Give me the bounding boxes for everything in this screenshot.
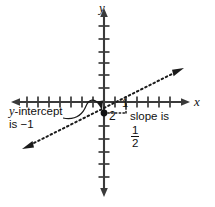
x-axis-label: x	[194, 95, 200, 110]
y-intercept-annotation-line-1: y-intercept	[9, 104, 63, 118]
graph-figure: y x y-intercept is −1 slope is 1 2 2 1	[0, 0, 215, 207]
intercept-callout-arrowhead	[97, 101, 104, 111]
slope-fraction-denominator: 2	[131, 137, 139, 150]
slope-annotation-text: slope is	[130, 110, 169, 123]
x-axis-right-arrowhead	[181, 98, 190, 106]
slope-fraction-numerator: 1	[131, 124, 139, 137]
y-intercept-annotation-word: -intercept	[15, 105, 63, 117]
y-intercept-annotation-line-2: is −1	[9, 118, 63, 131]
run-label: 2	[109, 110, 116, 123]
y-intercept-point	[101, 110, 108, 117]
y-intercept-annotation: y-intercept is −1	[9, 104, 63, 131]
slope-annotation: slope is 1 2	[130, 110, 169, 150]
graph-line-upper-arrowhead	[172, 68, 184, 76]
rise-label: 1	[122, 97, 128, 109]
y-axis-down-arrowhead	[100, 188, 108, 197]
y-axis-label: y	[99, 1, 105, 16]
graph-line-lower-arrowhead	[22, 141, 34, 149]
slope-fraction: 1 2	[131, 124, 139, 150]
